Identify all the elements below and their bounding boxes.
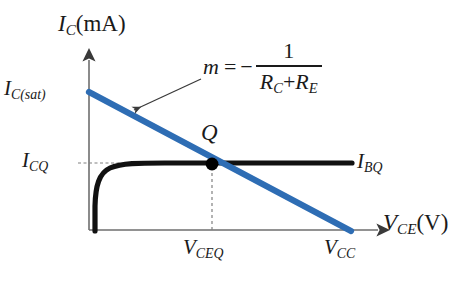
slope-denominator: RC+RE <box>256 67 322 95</box>
y-axis-title: IC(mA) <box>58 12 126 35</box>
y-axis-title-unit: (mA) <box>76 11 126 36</box>
x-axis-title-subscript: CE <box>397 220 416 237</box>
icq-label: ICQ <box>22 150 48 171</box>
slope-minus-sign: − <box>240 54 252 80</box>
denominator-rc-subscript: C <box>273 80 283 96</box>
ic-sat-symbol: I <box>4 76 11 100</box>
denominator-rc-symbol: R <box>260 69 273 94</box>
slope-equals-sign: = <box>224 54 236 80</box>
slope-numerator: 1 <box>273 38 304 65</box>
slope-callout-arrow <box>134 79 201 110</box>
x-axis-title-unit: (V) <box>416 210 448 235</box>
denominator-re-subscript: E <box>309 80 318 96</box>
icq-subscript: CQ <box>29 159 48 174</box>
vcc-tick-label: VCC <box>324 237 355 258</box>
vceq-symbol: V <box>183 235 196 259</box>
ibq-subscript: BQ <box>364 160 382 175</box>
icq-symbol: I <box>22 148 29 172</box>
q-point-label: Q <box>201 121 218 144</box>
denominator-re-symbol: R <box>295 69 308 94</box>
vceq-subscript: CEQ <box>196 246 224 261</box>
y-axis-title-subscript: C <box>66 21 76 38</box>
vceq-tick-label: VCEQ <box>183 237 224 258</box>
slope-symbol-m: m <box>203 54 219 80</box>
q-point-marker <box>206 158 219 171</box>
dc-load-line-figure: IC(mA) VCE(V) IC(sat) ICQ IBQ Q VCEQ VCC… <box>0 0 476 285</box>
x-axis-title-symbol: V <box>383 210 397 235</box>
collector-characteristic-curve <box>95 163 352 231</box>
ibq-label: IBQ <box>357 151 382 172</box>
y-axis-title-symbol: I <box>58 11 66 36</box>
vcc-subscript: CC <box>337 246 356 261</box>
denominator-plus-sign: + <box>283 69 295 94</box>
slope-equation-annotation: m = − 1 RC+RE <box>203 38 322 95</box>
vcc-symbol: V <box>324 235 337 259</box>
ibq-symbol: I <box>357 149 364 173</box>
x-axis-title: VCE(V) <box>383 211 448 234</box>
slope-fraction: 1 RC+RE <box>256 38 322 95</box>
ic-sat-subscript: C(sat) <box>11 87 46 102</box>
ic-sat-label: IC(sat) <box>4 78 46 99</box>
